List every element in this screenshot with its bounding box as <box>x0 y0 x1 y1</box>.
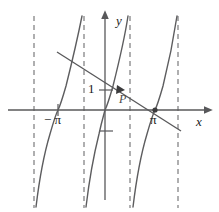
tangent-branch-center <box>86 16 128 207</box>
y-tick-label-one: 1 <box>88 82 95 95</box>
plot-canvas <box>0 0 219 212</box>
tangent-function-figure: y x P 1 − π π <box>0 0 219 212</box>
x-axis-label: x <box>196 115 202 128</box>
x-tick-label-neg-pi: − π <box>44 113 61 126</box>
x-tick-label-pi: π <box>150 113 157 126</box>
y-axis-label: y <box>116 14 122 27</box>
point-p-label: P <box>119 93 126 105</box>
